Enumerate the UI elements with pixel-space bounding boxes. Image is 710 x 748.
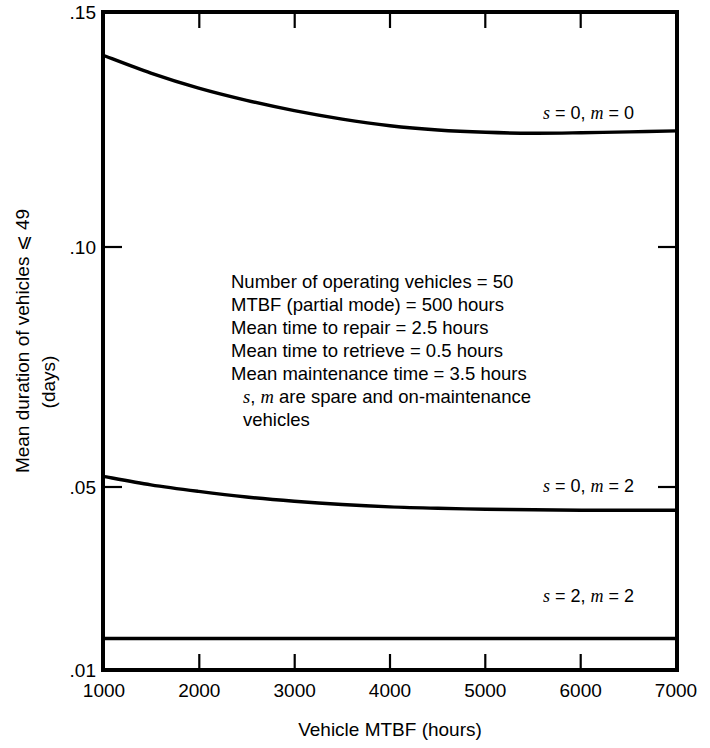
series-label-s0-m0: s = 0, m = 0 (543, 103, 634, 123)
series-label-s0-m2-s: s (543, 476, 550, 496)
y-tick-label-0: .15 (70, 2, 96, 23)
series-label-s0-m2-eq1: = 0, (550, 476, 591, 496)
series-label-s2-m2: s = 2, m = 2 (543, 586, 634, 606)
series-label-s2-m2-s: s (543, 586, 550, 606)
y-tick-labels: .15 .10 .05 .01 (70, 2, 96, 681)
series-label-s0-m0-eq1: = 0, (550, 103, 591, 123)
annotation-line-7: vehicles (243, 409, 310, 430)
y-axis-title-line2: (days) (38, 356, 59, 409)
series-label-s0-m2-m: m (591, 476, 604, 496)
x-tick-label-0: 1000 (83, 680, 125, 701)
annotation-line-3: Mean time to repair = 2.5 hours (231, 317, 489, 338)
y-tick-label-3: .01 (70, 660, 96, 681)
x-tick-label-1: 2000 (178, 680, 220, 701)
series-label-s2-m2-m: m (591, 586, 604, 606)
annotation-line-2: MTBF (partial mode) = 500 hours (231, 294, 504, 315)
annotation-line-6-sep: , (250, 386, 260, 407)
x-tick-label-3: 4000 (369, 680, 411, 701)
annotation-block: Number of operating vehicles = 50 MTBF (… (231, 271, 531, 430)
chart-figure: .15 .10 .05 .01 1000 2000 3000 4000 5000… (0, 0, 710, 748)
annotation-line-6-rest: are spare and on-maintenance (274, 386, 531, 407)
x-tick-label-4: 5000 (464, 680, 506, 701)
annotation-line-6-m: m (260, 387, 273, 407)
x-tick-label-5: 6000 (560, 680, 602, 701)
x-axis-title: Vehicle MTBF (hours) (298, 719, 482, 740)
chart-canvas: .15 .10 .05 .01 1000 2000 3000 4000 5000… (0, 0, 710, 748)
x-tick-label-6: 7000 (655, 680, 697, 701)
y-tick-label-2: .05 (70, 477, 96, 498)
series-label-s0-m2-eq2: = 2 (604, 476, 635, 496)
annotation-line-1: Number of operating vehicles = 50 (231, 271, 513, 292)
x-tick-label-2: 3000 (274, 680, 316, 701)
series-label-s0-m0-s: s (543, 103, 550, 123)
series-label-s0-m0-m: m (591, 103, 604, 123)
series-label-s0-m0-eq2: = 0 (604, 103, 635, 123)
annotation-line-6-s: s (243, 387, 250, 407)
x-tick-labels: 1000 2000 3000 4000 5000 6000 7000 (83, 680, 697, 701)
annotation-line-6: s, m are spare and on-maintenance (243, 386, 531, 407)
series-label-s2-m2-eq1: = 2, (550, 586, 591, 606)
y-tick-label-1: .10 (70, 237, 96, 258)
y-axis-title: Mean duration of vehicles ⩽ 49 (days) (12, 209, 59, 473)
series-label-s2-m2-eq2: = 2 (604, 586, 635, 606)
series-label-s0-m2: s = 0, m = 2 (543, 476, 634, 496)
annotation-line-5: Mean maintenance time = 3.5 hours (231, 363, 527, 384)
annotation-line-4: Mean time to retrieve = 0.5 hours (231, 340, 503, 361)
y-axis-title-line1: Mean duration of vehicles ⩽ 49 (12, 209, 33, 473)
